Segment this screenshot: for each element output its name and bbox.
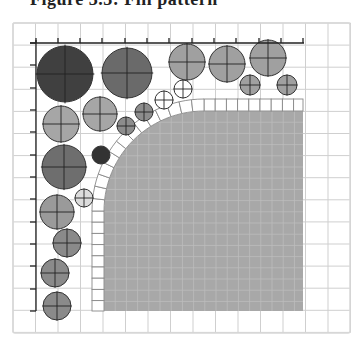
circle-marker xyxy=(82,96,118,132)
circle-marker xyxy=(40,258,69,287)
circle-marker xyxy=(101,47,154,100)
tile xyxy=(92,278,104,289)
tile xyxy=(92,301,104,311)
circle-marker xyxy=(42,291,71,320)
fill-region xyxy=(104,111,303,311)
circle-marker xyxy=(174,80,193,99)
tile xyxy=(249,99,260,111)
tile xyxy=(226,99,237,111)
circle-marker xyxy=(36,45,95,104)
tile xyxy=(92,289,104,300)
tile xyxy=(92,222,104,233)
circle-marker xyxy=(168,43,206,81)
circle-marker xyxy=(117,117,136,136)
tile xyxy=(271,99,282,111)
circle-marker xyxy=(92,146,110,164)
tile xyxy=(92,256,104,267)
tile xyxy=(92,198,105,211)
circle-marker xyxy=(208,45,246,83)
circle-marker xyxy=(277,75,298,96)
circle-marker xyxy=(135,103,154,122)
tile xyxy=(282,99,293,111)
tile xyxy=(294,99,303,111)
circle-marker xyxy=(240,75,261,96)
circle-shape xyxy=(92,146,110,164)
tile xyxy=(204,99,215,111)
tile xyxy=(191,99,204,112)
fill-pattern-diagram xyxy=(0,0,359,347)
circle-marker xyxy=(52,228,81,257)
tile xyxy=(260,99,271,111)
tile xyxy=(179,100,193,114)
tile xyxy=(238,99,249,111)
tile xyxy=(92,245,104,256)
tile xyxy=(92,211,104,222)
tile xyxy=(92,267,104,278)
circle-marker xyxy=(155,91,174,110)
tile xyxy=(92,233,104,244)
circle-marker xyxy=(75,189,94,208)
fill-area xyxy=(104,111,303,311)
tile xyxy=(215,99,226,111)
circle-marker xyxy=(42,105,80,143)
